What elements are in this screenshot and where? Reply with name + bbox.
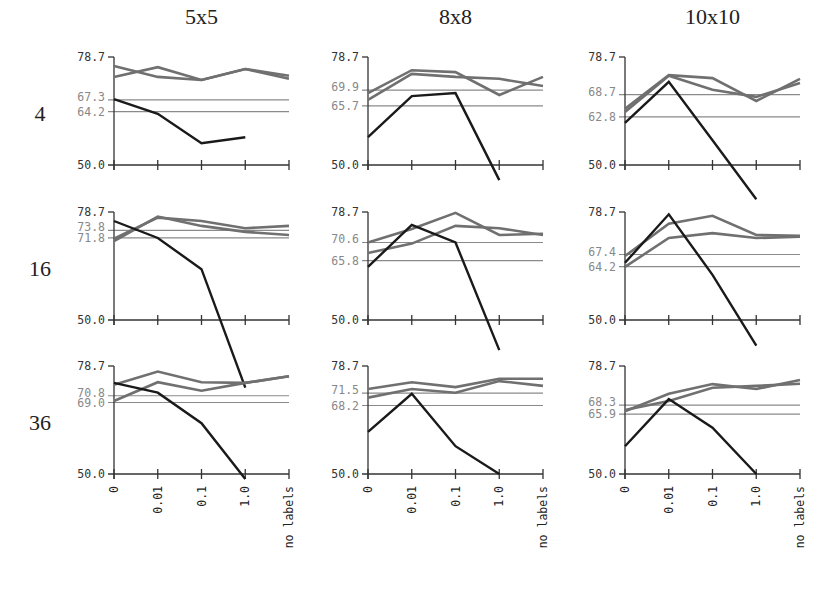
panel-4-5x5: 67.364.278.750.0 — [77, 50, 289, 172]
panel-16-5x5: 73.871.878.750.0 — [77, 205, 289, 388]
panel-16-8x8: 70.665.878.750.0 — [331, 205, 543, 350]
panel-36-5x5: 70.869.078.750.000.010.11.0no labels — [77, 359, 296, 548]
column-title: 8x8 — [439, 4, 472, 29]
y-tick-label-max: 78.7 — [331, 50, 359, 64]
y-tick-label-min: 50.0 — [77, 158, 105, 172]
reference-value-label: 69.0 — [77, 396, 105, 410]
reference-value-label: 70.6 — [331, 232, 359, 246]
row-title: 36 — [29, 410, 51, 435]
x-tick-label: 1.0 — [238, 486, 252, 507]
reference-value-label: 64.2 — [77, 105, 105, 119]
y-tick-label-max: 78.7 — [588, 359, 616, 373]
x-tick-label: 0 — [618, 486, 632, 493]
y-tick-label-min: 50.0 — [331, 158, 359, 172]
x-tick-label: no labels — [536, 486, 550, 548]
reference-value-label: 68.7 — [588, 85, 616, 99]
y-tick-label-min: 50.0 — [588, 467, 616, 481]
x-tick-label: 0.01 — [405, 486, 419, 514]
panel-4-10x10: 68.762.878.750.0 — [588, 50, 800, 199]
x-tick-label: 0.1 — [706, 486, 720, 507]
reference-value-label: 67.3 — [77, 90, 105, 104]
y-tick-label-max: 78.7 — [77, 50, 105, 64]
x-tick-label: no labels — [282, 486, 296, 548]
x-tick-label: 0.1 — [195, 486, 209, 507]
reference-value-label: 62.8 — [588, 110, 616, 124]
y-tick-label-min: 50.0 — [588, 313, 616, 327]
panel-16-10x10: 67.464.278.750.0 — [588, 205, 800, 346]
y-tick-label-max: 78.7 — [331, 359, 359, 373]
panel-4-8x8: 69.965.778.750.0 — [331, 50, 543, 180]
x-tick-label: 0 — [361, 486, 375, 493]
y-tick-label-min: 50.0 — [588, 158, 616, 172]
series-line-black — [625, 214, 756, 345]
series-line-gray-a — [368, 213, 543, 243]
y-tick-label-max: 78.7 — [77, 359, 105, 373]
y-tick-label-min: 50.0 — [331, 467, 359, 481]
y-tick-label-max: 78.7 — [77, 205, 105, 219]
reference-value-label: 65.7 — [331, 99, 359, 113]
y-tick-label-min: 50.0 — [77, 313, 105, 327]
series-line-black — [114, 99, 245, 143]
chart-figure: 5x58x810x104163667.364.278.750.069.965.7… — [0, 0, 831, 598]
reference-value-label: 69.9 — [331, 80, 359, 94]
x-tick-label: 0.01 — [662, 486, 676, 514]
x-tick-label: 0 — [107, 486, 121, 493]
reference-value-label: 64.2 — [588, 260, 616, 274]
reference-value-label: 65.9 — [588, 407, 616, 421]
series-line-black — [114, 383, 245, 479]
reference-value-label: 65.8 — [331, 254, 359, 268]
x-tick-label: no labels — [793, 486, 807, 548]
y-tick-label-max: 78.7 — [331, 205, 359, 219]
column-title: 10x10 — [685, 4, 740, 29]
series-line-gray-b — [625, 384, 800, 410]
x-tick-label: 0.1 — [449, 486, 463, 507]
series-line-gray-b — [625, 76, 800, 112]
series-line-black — [114, 221, 245, 388]
series-line-gray-a — [114, 372, 289, 385]
reference-value-label: 68.2 — [331, 399, 359, 413]
series-line-gray-b — [368, 381, 543, 398]
row-title: 16 — [29, 256, 51, 281]
reference-value-label: 67.4 — [588, 245, 616, 259]
row-title: 4 — [35, 101, 46, 126]
y-tick-label-min: 50.0 — [77, 467, 105, 481]
series-line-black — [625, 82, 756, 199]
y-tick-label-min: 50.0 — [331, 313, 359, 327]
column-title: 5x5 — [185, 4, 218, 29]
x-tick-label: 1.0 — [749, 486, 763, 507]
series-line-black — [368, 225, 499, 350]
reference-value-label: 71.8 — [77, 231, 105, 245]
y-tick-label-max: 78.7 — [588, 205, 616, 219]
panel-36-10x10: 68.365.978.750.000.010.11.0no labels — [588, 359, 807, 548]
series-line-gray-a — [114, 218, 289, 239]
reference-value-label: 71.5 — [331, 383, 359, 397]
x-tick-label: 1.0 — [492, 486, 506, 507]
series-line-black — [625, 399, 756, 474]
y-tick-label-max: 78.7 — [588, 50, 616, 64]
panel-36-8x8: 71.568.278.750.000.010.11.0no labels — [331, 359, 550, 548]
series-line-gray-b — [368, 226, 543, 253]
x-tick-label: 0.01 — [151, 486, 165, 514]
